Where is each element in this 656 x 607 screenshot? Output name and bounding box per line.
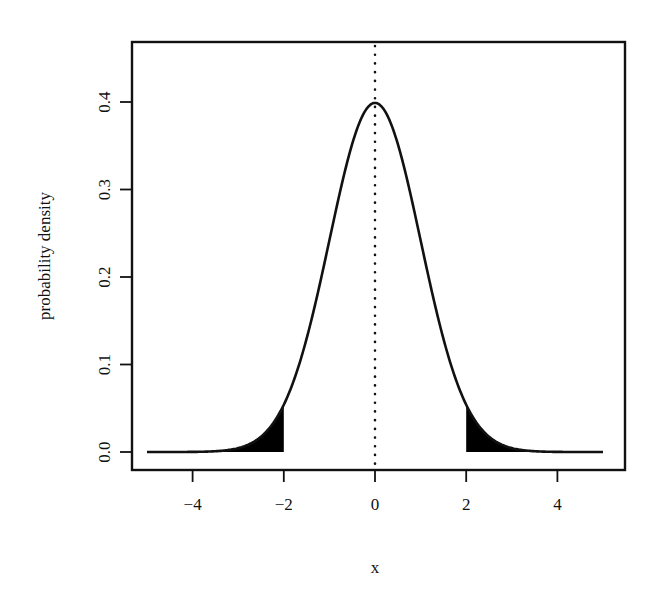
normal-density-chart: −4−2024 0.00.10.20.30.4 x probability de… [0,0,656,607]
x-tick-label: −2 [275,495,293,514]
left-tail-shaded-area [147,405,284,452]
right-tail-shaded-area [466,405,603,452]
density-curve [147,103,603,452]
x-tick-label: −4 [184,495,203,514]
y-axis: 0.00.10.20.30.4 [95,91,132,463]
x-axis: −4−2024 [184,470,563,514]
x-axis-title: x [371,558,380,577]
y-tick-label: 0.4 [95,91,114,113]
plot-frame [132,42,625,470]
y-tick-label: 0.1 [95,354,114,375]
y-tick-label: 0.2 [95,266,114,287]
y-tick-label: 0.3 [95,179,114,200]
x-tick-label: 2 [462,495,471,514]
y-tick-label: 0.0 [95,441,114,462]
x-tick-label: 0 [371,495,380,514]
x-tick-label: 4 [553,495,562,514]
y-axis-title: probability density [35,192,54,320]
